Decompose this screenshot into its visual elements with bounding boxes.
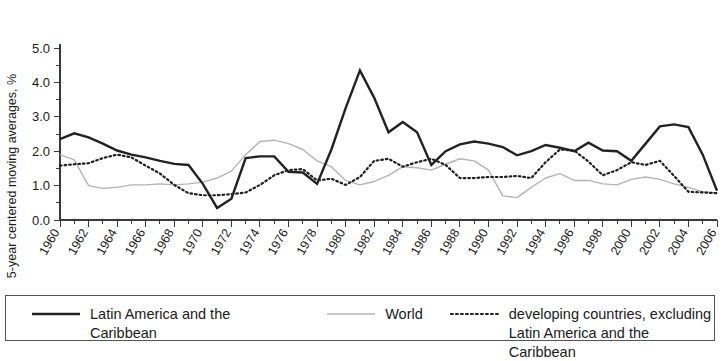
legend: Latin America and the Caribbean World de… xyxy=(5,295,715,341)
x-tick-label: 1996 xyxy=(551,226,577,257)
x-tick-label: 1962 xyxy=(65,226,91,257)
x-tick-label: 1970 xyxy=(179,226,205,257)
x-tick-label: 1960 xyxy=(37,226,63,257)
legend-swatch-solid-thin-icon xyxy=(325,305,377,321)
x-tick-label: 2002 xyxy=(636,226,662,257)
x-tick-label: 1964 xyxy=(94,226,120,257)
x-tick-label: 2004 xyxy=(665,226,691,257)
x-tick-label: 1984 xyxy=(379,226,405,257)
y-tick-label: 5.0 xyxy=(32,41,50,56)
series-line-world xyxy=(60,140,717,197)
legend-label-developing-countries: developing countries, excluding Latin Am… xyxy=(509,305,714,361)
series-line-developing-countries xyxy=(60,149,717,195)
x-tick-label: 1982 xyxy=(351,226,377,257)
x-axis: 1960196219641966196819701972197419761978… xyxy=(37,220,720,258)
x-tick-label: 1978 xyxy=(294,226,320,257)
x-tick-label: 1998 xyxy=(579,226,605,257)
legend-swatch-dotted-icon xyxy=(449,305,501,321)
x-tick-label: 1994 xyxy=(522,226,548,257)
series-lines xyxy=(60,70,717,208)
legend-entry-developing-countries: developing countries, excluding Latin Am… xyxy=(449,305,714,361)
y-tick-label: 1.0 xyxy=(32,178,50,193)
legend-entry-latin-america: Latin America and the Caribbean xyxy=(30,305,295,343)
x-tick-label: 1988 xyxy=(436,226,462,257)
legend-label-latin-america: Latin America and the Caribbean xyxy=(90,305,295,343)
x-tick-label: 1992 xyxy=(494,226,520,257)
y-tick-label: 3.0 xyxy=(32,109,50,124)
x-tick-label: 1968 xyxy=(151,226,177,257)
x-tick-label: 1966 xyxy=(122,226,148,257)
y-tick-label: 2.0 xyxy=(32,144,50,159)
x-tick-label: 2000 xyxy=(608,226,634,257)
x-tick-label: 1986 xyxy=(408,226,434,257)
x-tick-label: 1976 xyxy=(265,226,291,257)
y-axis-title: 5-year centered moving averages, % xyxy=(5,74,19,278)
x-tick-label: 1980 xyxy=(322,226,348,257)
y-axis: 0.01.02.03.04.05.0 xyxy=(32,41,60,228)
y-tick-label: 4.0 xyxy=(32,75,50,90)
y-axis-title-text: 5-year centered moving averages, % xyxy=(5,74,19,278)
series-line-latin-america-caribbean xyxy=(60,70,717,208)
y-tick-label: 0.0 xyxy=(32,213,50,228)
legend-entry-world: World xyxy=(325,305,423,324)
chart-plot-area: 0.01.02.03.04.05.0 196019621964196619681… xyxy=(0,0,723,292)
line-chart: 0.01.02.03.04.05.0 196019621964196619681… xyxy=(0,0,723,292)
x-tick-label: 1972 xyxy=(208,226,234,257)
legend-swatch-solid-thick-icon xyxy=(30,305,82,321)
x-tick-label: 1990 xyxy=(465,226,491,257)
legend-label-world: World xyxy=(385,305,423,324)
x-tick-label: 1974 xyxy=(237,226,263,257)
x-tick-label: 2006 xyxy=(694,226,720,257)
